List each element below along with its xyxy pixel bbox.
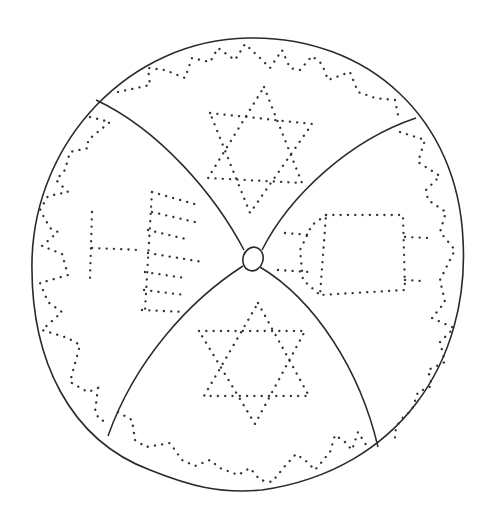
menorah-base (90, 212, 92, 278)
zigzag-border-right (395, 132, 455, 440)
menorah-branch-4 (148, 253, 203, 262)
star-of-david-top-downward-triangle (210, 113, 312, 213)
torah-scroll-handle-bottom-left (278, 270, 308, 272)
torah-scroll-handle-bottom-right (405, 280, 422, 281)
menorah-branch-6 (144, 290, 185, 295)
zigzag-border-top (118, 44, 398, 115)
seam-top-right (262, 118, 416, 250)
kippah-drawing (0, 0, 492, 517)
menorah-branch-3 (148, 230, 190, 240)
kippah-illustration: Kippah (yarmulke) coloring-page line dra… (0, 0, 492, 517)
menorah (90, 192, 203, 312)
star-of-david-bottom-upward-triangle (204, 303, 309, 396)
star-of-david-top-upward-triangle (208, 87, 302, 183)
torah-scroll (278, 215, 428, 295)
torah-scroll-body (320, 215, 405, 295)
menorah-stem (92, 248, 140, 250)
menorah-branch-5 (145, 272, 185, 278)
menorah-branch-1 (152, 192, 198, 205)
torah-scroll-handle-top-right (405, 237, 428, 238)
menorah-branch-2 (152, 212, 195, 222)
seam-bottom-right (260, 267, 378, 447)
torah-scroll-handle-top-left (285, 233, 310, 235)
zigzag-border-left (40, 117, 110, 422)
seam-top-left (96, 100, 244, 250)
menorah-branch-7 (142, 310, 185, 312)
seam-bottom-left (108, 266, 243, 436)
menorah-spine (145, 192, 152, 310)
